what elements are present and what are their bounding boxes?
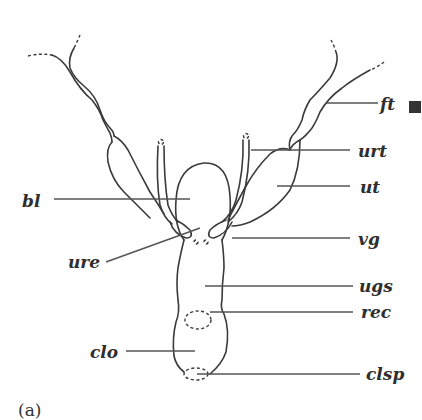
label-ure: ure [68, 252, 100, 272]
label-ugs: ugs [359, 276, 393, 296]
left-oviduct [28, 35, 164, 218]
label-ft: ft [379, 94, 395, 114]
right-oviduct [228, 40, 384, 226]
anatomy-diagram: ft urt ut bl vg ure ugs rec clo clsp (a) [0, 0, 422, 420]
label-clo: clo [90, 342, 118, 362]
urogenital-sinus-cloaca [173, 240, 227, 374]
label-rec: rec [361, 302, 392, 322]
label-ut: ut [360, 177, 380, 197]
figure-caption: (a) [18, 400, 41, 420]
label-vg: vg [358, 229, 380, 249]
marker-square [409, 101, 421, 113]
left-ureter [157, 140, 178, 225]
leader-lines [54, 103, 378, 374]
label-urt: urt [358, 141, 387, 161]
rectum-opening [185, 311, 211, 329]
bladder [176, 163, 231, 240]
label-bl: bl [22, 191, 41, 211]
label-clsp: clsp [366, 364, 404, 384]
